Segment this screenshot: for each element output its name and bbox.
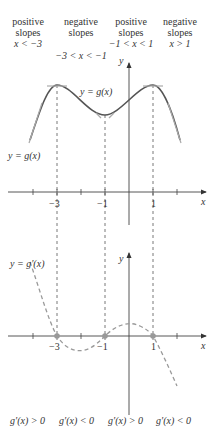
bottom-tick-label-neg3: −3 <box>49 341 60 352</box>
top-tick-label-neg3: −3 <box>49 198 60 209</box>
top-y-axis-label: y <box>119 55 123 66</box>
g-prime-curve <box>30 262 177 386</box>
top-tick-label-1: 1 <box>151 198 156 209</box>
bottom-tick-label-neg1: −1 <box>97 341 108 352</box>
top-x-axis <box>8 189 206 195</box>
vertical-guide-lines <box>57 85 153 342</box>
bottom-x-axis-label: x <box>201 340 205 351</box>
top-x-axis-label: x <box>201 196 205 207</box>
footer-sign-2: g′(x) < 0 <box>59 415 94 426</box>
footer-sign-4: g′(x) < 0 <box>156 415 191 426</box>
footer-sign-3: g′(x) > 0 <box>108 415 143 426</box>
bottom-y-axis-label: y <box>119 253 123 264</box>
bottom-curve-label: y = g′(x) <box>10 258 44 269</box>
footer-sign-1: g′(x) > 0 <box>10 415 45 426</box>
diagram-canvas <box>0 0 217 439</box>
top-curve-label: y = g(x) <box>80 86 112 97</box>
bottom-tick-label-1: 1 <box>151 341 156 352</box>
top-curve-label-left: y = g(x) <box>8 150 40 161</box>
top-tick-label-neg1: −1 <box>97 198 108 209</box>
